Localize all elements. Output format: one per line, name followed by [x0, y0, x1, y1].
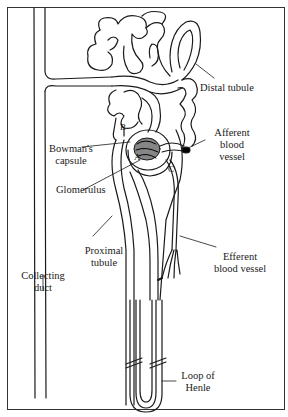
proximal-convolutions-drawing	[108, 90, 161, 140]
label-line: Proximal	[80, 245, 128, 257]
distal-convolutions-drawing	[88, 12, 166, 74]
marker-b: B	[120, 122, 126, 132]
label-line: blood	[205, 139, 259, 151]
label-efferent-blood-vessel: Efferent blood vessel	[204, 251, 276, 275]
label-line: blood vessel	[204, 263, 276, 275]
label-proximal-tubule: Proximal tubule	[80, 245, 128, 269]
label-loop-of-henle: Loop of Henle	[175, 370, 221, 394]
label-text: Distal tubule	[200, 82, 254, 93]
label-line: Efferent	[204, 251, 276, 263]
label-glomerulus: Glomerulus	[56, 184, 106, 196]
marker-a: A	[134, 152, 141, 162]
label-bowmans-capsule: Bowman's capsule	[40, 143, 102, 167]
label-line: capsule	[40, 155, 102, 167]
efferent-vessel-drawing	[158, 160, 180, 280]
nephron-illustration	[0, 0, 288, 417]
label-line: tubule	[80, 257, 128, 269]
label-collecting-duct: Collecting duct	[16, 270, 70, 294]
label-line: Henle	[175, 382, 221, 394]
label-line: vessel	[205, 151, 259, 163]
label-distal-tubule: Distal tubule	[200, 82, 254, 94]
label-line: Collecting	[16, 270, 70, 282]
label-line: duct	[16, 282, 70, 294]
marker-c: C	[168, 164, 174, 174]
label-text: Glomerulus	[56, 184, 106, 195]
loop-of-henle-drawing	[126, 300, 166, 412]
distal-tubule-hairpin-drawing	[149, 21, 200, 80]
label-line: Afferent	[205, 127, 259, 139]
label-afferent-blood-vessel: Afferent blood vessel	[205, 127, 259, 163]
label-line: Loop of	[175, 370, 221, 382]
collecting-duct-drawing	[34, 8, 112, 398]
label-line: Bowman's	[40, 143, 102, 155]
